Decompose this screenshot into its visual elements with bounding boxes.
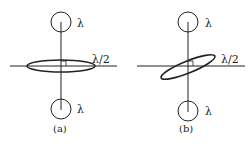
caption-a: (a) (53, 124, 67, 134)
right-angle-marker-a (61, 61, 66, 66)
half-lambda-label-b: λ/2 (221, 54, 239, 65)
top-lambda-label-a: λ (77, 18, 84, 29)
panel-b (137, 12, 245, 121)
right-angle-marker-b (188, 61, 193, 66)
bottom-lambda-label-a: λ (77, 104, 84, 115)
half-lambda-label-a: λ/2 (92, 54, 110, 65)
top-lambda-label-b: λ (205, 18, 212, 29)
caption-b: (b) (179, 124, 193, 134)
bottom-lambda-label-b: λ (205, 106, 212, 117)
